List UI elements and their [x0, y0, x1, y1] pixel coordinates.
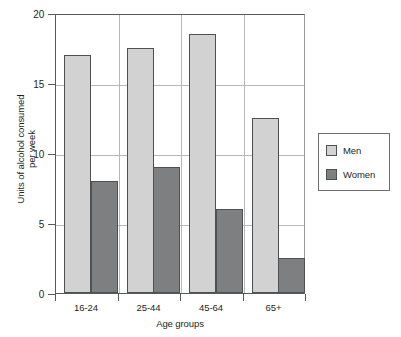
x-tick-label-65plus: 65+ — [239, 302, 309, 313]
bar-men-25-44 — [127, 48, 154, 293]
legend-swatch-men-icon — [326, 145, 337, 156]
y-tick-mark-0 — [48, 294, 55, 295]
x-tick-label-25-44: 25-44 — [114, 302, 184, 313]
x-tick-mark-3 — [243, 294, 244, 301]
y-tick-label-20: 20 — [20, 9, 44, 20]
bar-men-65plus — [252, 118, 279, 293]
bar-women-45-64 — [216, 209, 243, 293]
plot-area — [55, 14, 305, 294]
x-axis-title: Age groups — [55, 318, 305, 329]
legend-item-men: Men — [326, 141, 383, 159]
y-tick-mark-15 — [48, 84, 55, 85]
legend-swatch-women-icon — [326, 169, 337, 180]
bar-women-25-44 — [153, 167, 180, 293]
x-tick-mark-2 — [180, 294, 181, 301]
x-tick-label-16-24: 16-24 — [51, 302, 121, 313]
gridline-y-15 — [56, 85, 304, 86]
y-tick-mark-5 — [48, 224, 55, 225]
y-tick-label-10: 10 — [20, 149, 44, 160]
x-tick-mark-right — [305, 294, 306, 301]
x-tick-mark-1 — [118, 294, 119, 301]
legend-item-women: Women — [326, 165, 383, 183]
bar-chart-figure: Units of alcohol consumed per week 20 15… — [0, 0, 401, 337]
y-tick-mark-10 — [48, 154, 55, 155]
bar-women-65plus — [278, 258, 305, 293]
y-tick-label-5: 5 — [20, 219, 44, 230]
chart-legend: Men Women — [318, 133, 390, 191]
x-tick-label-45-64: 45-64 — [176, 302, 246, 313]
y-tick-mark-20 — [48, 14, 55, 15]
legend-label-women: Women — [343, 169, 375, 180]
legend-label-men: Men — [343, 145, 361, 156]
gridline-x-1 — [119, 15, 120, 293]
x-tick-mark-left — [55, 294, 56, 301]
gridline-x-3 — [244, 15, 245, 293]
bar-men-45-64 — [189, 34, 216, 293]
gridline-x-2 — [181, 15, 182, 293]
y-tick-label-15: 15 — [20, 79, 44, 90]
y-tick-label-0: 0 — [20, 289, 44, 300]
bar-women-16-24 — [91, 181, 118, 293]
bar-men-16-24 — [64, 55, 91, 293]
